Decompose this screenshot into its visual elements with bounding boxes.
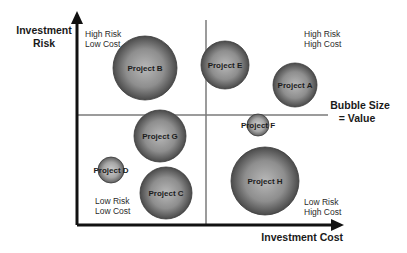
bubble-label: Project E (208, 61, 243, 70)
bubble-project-g: Project G (134, 110, 186, 162)
bubble-project-h: Project H (231, 147, 299, 215)
bubble-project-f: Project F (241, 114, 275, 136)
quadrant-label-top-right-line2: High Cost (304, 39, 342, 49)
y-axis-title-line2: Risk (33, 37, 55, 49)
quadrant-label-bottom-right-line1: Low Risk (304, 197, 339, 207)
quadrant-label-bottom-left-line1: Low Risk (95, 196, 130, 206)
bubble-label: Project H (247, 177, 282, 186)
bubble-chart: Project AProject BProject CProject DProj… (0, 0, 407, 253)
x-axis-arrow-icon (331, 219, 344, 231)
legend-note-line2: = Value (339, 112, 376, 124)
quadrant-label-bottom-left-line2: Low Cost (95, 206, 131, 216)
bubble-label: Project D (93, 166, 128, 175)
quadrant-label-top-left-line1: High Risk (85, 29, 122, 39)
bubble-project-b: Project B (113, 36, 177, 100)
bubble-label: Project G (142, 132, 178, 141)
bubble-project-d: Project D (93, 157, 128, 183)
bubble-label: Project A (278, 81, 313, 90)
bubble-project-c: Project C (140, 167, 192, 219)
y-axis-arrow-icon (71, 11, 83, 24)
quadrant-label-bottom-right-line2: High Cost (304, 207, 342, 217)
x-axis-title: Investment Cost (261, 231, 343, 243)
y-axis-title-line1: Investment (16, 24, 72, 36)
bubble-project-e: Project E (201, 41, 249, 89)
bubble-label: Project C (148, 189, 183, 198)
legend-note-line1: Bubble Size (330, 99, 390, 111)
quadrant-label-top-right-line1: High Risk (304, 29, 341, 39)
bubble-label: Project F (241, 121, 275, 130)
bubbles-group: Project AProject BProject CProject DProj… (93, 36, 317, 219)
bubble-project-a: Project A (273, 63, 317, 107)
bubble-label: Project B (127, 64, 162, 73)
quadrant-label-top-left-line2: Low Cost (85, 39, 121, 49)
